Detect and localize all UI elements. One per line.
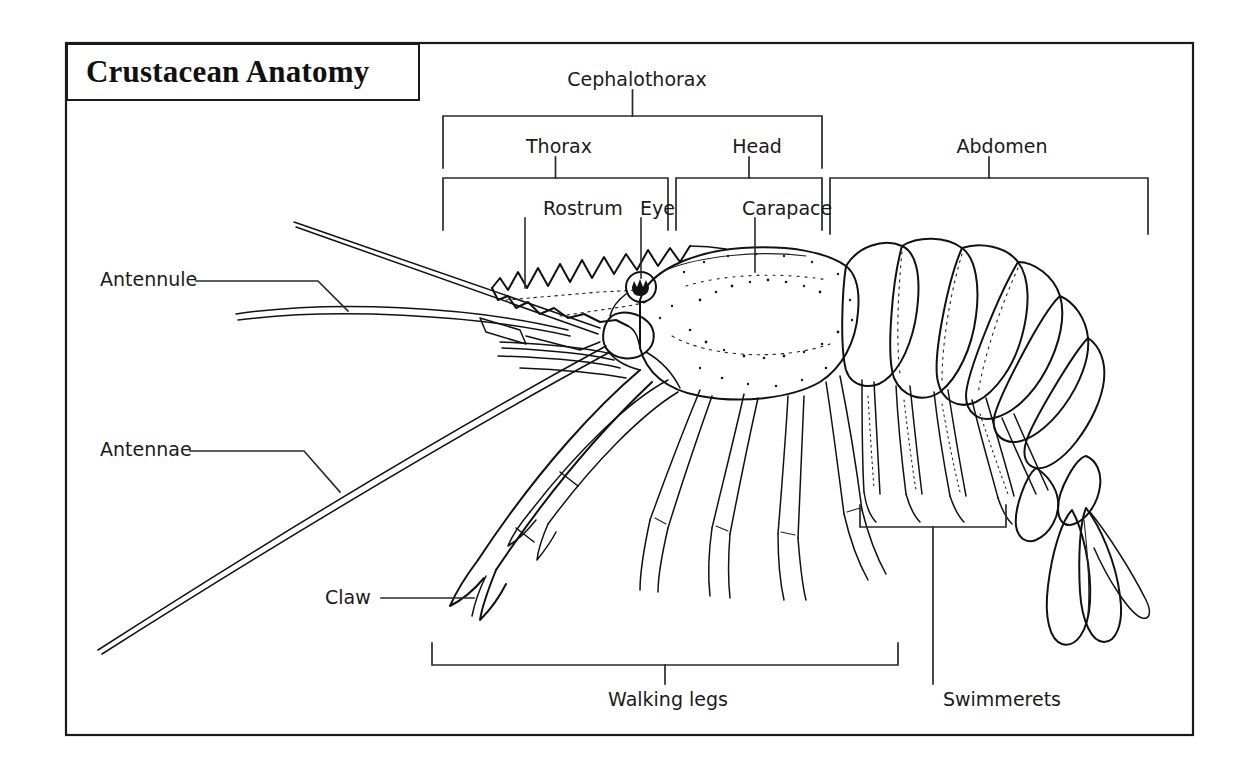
swimmeret-5-back xyxy=(1014,414,1048,490)
cheliped2-upper xyxy=(530,380,668,512)
label-antennae: Antennae xyxy=(100,440,192,459)
abdomen-segment-1 xyxy=(842,243,918,386)
swimmeret-1-front xyxy=(862,380,864,492)
swimmeret-1-tip xyxy=(864,492,876,522)
cheliped2-pincer-b xyxy=(537,524,556,560)
walking-leg-2-dactyl2 xyxy=(729,534,731,598)
leader-line-layer xyxy=(190,218,755,598)
page-title: Crustacean Anatomy xyxy=(86,54,369,90)
walking-leg-4-front xyxy=(826,382,844,514)
label-abdomen: Abdomen xyxy=(957,137,1048,156)
bracket-abdomen xyxy=(830,178,1148,234)
rostrum-carapace-join xyxy=(628,326,640,348)
leg-joint-tick-2 xyxy=(716,526,728,531)
walking-leg-2-dactyl xyxy=(709,528,712,596)
swimmeret-4-tip xyxy=(998,498,1012,524)
abdomen-ridge-1 xyxy=(898,252,902,374)
antenna-flagellum-lower xyxy=(102,352,610,654)
label-claw: Claw xyxy=(325,588,371,607)
label-swimmerets: Swimmerets xyxy=(943,690,1061,709)
carapace-upper-groove xyxy=(686,275,828,286)
walking-leg-3-dactyl2 xyxy=(798,538,806,600)
leg-joint-tick-4 xyxy=(847,508,860,512)
walking-leg-2-back xyxy=(730,398,758,534)
walking-leg-3-back xyxy=(798,396,804,538)
label-antennule: Antennule xyxy=(100,270,197,289)
bracket-layer xyxy=(432,90,1148,684)
swimmeret-4-back xyxy=(986,398,1014,496)
label-head: Head xyxy=(732,137,782,156)
bracket-walking-legs xyxy=(432,643,898,665)
cheliped2-lower xyxy=(548,392,678,524)
walking-leg-1-dactyl xyxy=(640,520,650,590)
swimmeret-1-back xyxy=(874,382,880,494)
abdomen-segment-6 xyxy=(1024,338,1104,468)
bracket-swimmerets xyxy=(860,505,1006,527)
crustacean-illustration xyxy=(0,0,1255,767)
crustacean-anatomy-diagram: Crustacean Anatomy CephalothoraxThoraxHe… xyxy=(0,0,1255,767)
carapace-cervical-groove xyxy=(672,336,830,355)
tail-joint-plate xyxy=(1058,456,1100,525)
swimmeret-2-back xyxy=(910,386,922,494)
antennule-basal-segment xyxy=(526,336,600,350)
carapace-stipple-texture xyxy=(659,253,853,388)
label-thorax: Thorax xyxy=(526,137,592,156)
leader-antennae xyxy=(190,451,340,492)
walking-leg-4-back xyxy=(840,376,862,510)
abdomen-segment-2 xyxy=(890,239,977,398)
label-walking-legs: Walking legs xyxy=(608,690,728,709)
swimmeret-setae-1 xyxy=(868,396,874,488)
walking-leg-4-dactyl xyxy=(844,514,868,580)
label-cephalothorax: Cephalothorax xyxy=(567,70,706,89)
antennule-lower-flagellum-bottom xyxy=(238,314,570,336)
abdomen-segment-4 xyxy=(966,262,1062,419)
cheliped-upper-edge xyxy=(478,370,640,560)
uropod-inner-blade xyxy=(1079,508,1121,642)
cheliped-joint-2 xyxy=(516,528,534,542)
eye-pupil xyxy=(632,279,649,296)
label-carapace: Carapace xyxy=(742,199,832,218)
walking-leg-1-dactyl2 xyxy=(658,528,668,592)
swimmeret-2-tip xyxy=(906,494,920,522)
abdomen-ridge-2 xyxy=(942,254,962,380)
swimmeret-3-front xyxy=(934,392,950,496)
cheliped-lower-edge xyxy=(496,382,652,570)
rostrum-serrated-edge xyxy=(492,246,690,290)
walking-leg-2-front xyxy=(712,394,744,528)
swimmeret-3-tip xyxy=(950,496,964,522)
rostrum-top-join xyxy=(690,246,726,249)
label-eye: Eye xyxy=(640,199,675,218)
claw-inner-edge xyxy=(472,576,486,616)
claw-dactyl-upper xyxy=(450,560,484,606)
uropod-outer-blade xyxy=(1047,510,1090,645)
leg-joint-tick-1 xyxy=(655,518,666,524)
telson-base xyxy=(1016,468,1058,541)
label-rostrum: Rostrum xyxy=(543,199,623,218)
uropod-midrib xyxy=(1084,520,1089,614)
title-box: Crustacean Anatomy xyxy=(66,43,420,101)
walking-leg-3-dactyl xyxy=(778,534,784,600)
swimmeret-2-front xyxy=(896,386,906,494)
walking-leg-3-front xyxy=(778,396,788,534)
swimmeret-setae-2 xyxy=(904,400,916,490)
leg-joint-tick-3 xyxy=(781,532,795,535)
walking-leg-1-front xyxy=(650,390,700,520)
